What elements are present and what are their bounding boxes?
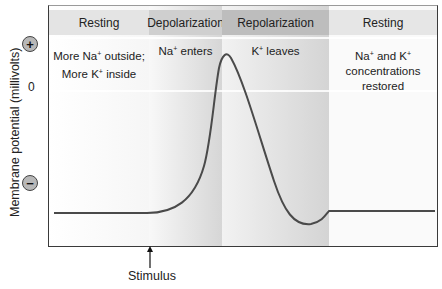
minus-icon: −: [22, 175, 38, 191]
y-axis-label: Membrane potential (millivolts): [8, 57, 22, 217]
action-potential-curve: [49, 6, 439, 248]
zero-tick: 0: [28, 80, 35, 94]
stimulus-label: Stimulus: [128, 269, 176, 283]
stimulus-arrow-icon: [147, 246, 153, 268]
plot-area: Resting More Na+ outside; More K+ inside…: [48, 5, 438, 247]
plus-icon: +: [22, 36, 38, 52]
